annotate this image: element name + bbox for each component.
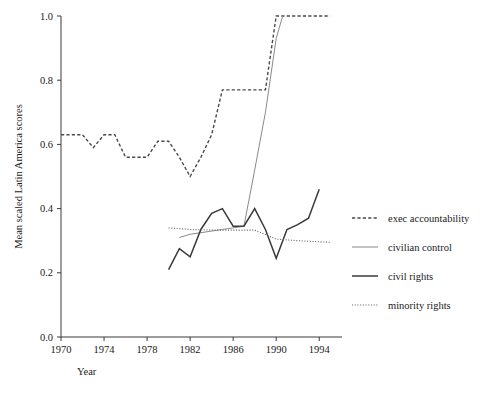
x-tick-label: 1978: [137, 344, 158, 355]
chart-figure: 0.00.20.40.60.81.01970197419781982198619…: [0, 0, 501, 394]
axis-layer: 0.00.20.40.60.81.01970197419781982198619…: [13, 11, 342, 377]
series-layer: [61, 16, 330, 270]
line-chart: 0.00.20.40.60.81.01970197419781982198619…: [0, 0, 501, 394]
x-tick-label: 1970: [51, 344, 72, 355]
y-tick-label: 0.8: [40, 75, 53, 86]
legend-label-civilian-control: civilian control: [388, 242, 452, 253]
y-tick-label: 1.0: [40, 11, 53, 22]
x-tick-label: 1994: [309, 344, 331, 355]
x-axis-title: Year: [77, 366, 97, 377]
series-line-minority-rights: [169, 228, 330, 242]
series-line-civilian-control: [179, 16, 282, 237]
y-tick-label: 0.0: [40, 332, 53, 343]
y-tick-label: 0.6: [40, 139, 53, 150]
x-tick-label: 1990: [266, 344, 287, 355]
y-tick-label: 0.4: [40, 203, 54, 214]
x-tick-label: 1982: [180, 344, 201, 355]
y-axis-title: Mean scaled Latin America scores: [13, 104, 24, 249]
legend-label-civil-rights: civil rights: [388, 271, 433, 282]
legend-label-minority-rights: minority rights: [388, 300, 451, 311]
x-tick-label: 1974: [94, 344, 116, 355]
x-tick-label: 1986: [223, 344, 244, 355]
legend-layer: exec accountabilitycivilian controlcivil…: [352, 213, 470, 311]
series-line-exec-accountability: [61, 16, 330, 177]
legend-label-exec-accountability: exec accountability: [388, 213, 470, 224]
y-tick-label: 0.2: [40, 267, 53, 278]
